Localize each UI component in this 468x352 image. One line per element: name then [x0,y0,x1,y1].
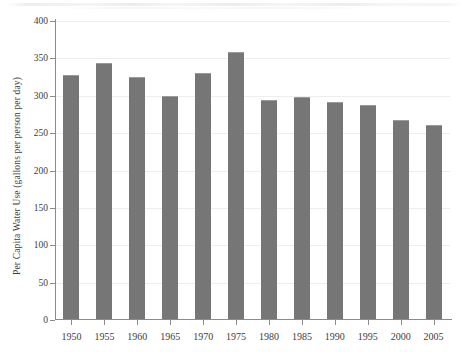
x-axis-tick [368,320,369,325]
x-axis-tick-label: 1960 [127,331,147,342]
scan-edge-artifact [8,3,462,6]
y-axis-tick-label: 250 [34,128,48,138]
x-axis-line [55,319,452,320]
x-axis-tick [170,320,171,325]
x-axis-tick [269,320,270,325]
x-axis-tick-label: 1950 [61,331,81,342]
bar [63,75,79,320]
y-axis-line [55,19,56,320]
bar [195,73,211,320]
y-axis-tick-label: 50 [39,278,49,288]
bar [393,120,409,320]
gridline [55,245,450,246]
scan-edge-artifact-secondary [60,7,378,9]
bar [162,96,178,320]
y-axis-tick-label: 350 [34,53,48,63]
bar-chart-figure: Per Capita Water Use (gallons per person… [0,0,468,352]
x-axis-tick [335,320,336,325]
bar [426,125,442,320]
plot-frame: 050100150200250300350400 195019551960196… [55,21,450,320]
gridline [55,171,450,172]
y-axis-tick-label: 400 [34,16,48,26]
x-axis-tick [104,320,105,325]
x-axis-tick [302,320,303,325]
x-axis-tick-label: 1985 [292,331,312,342]
bar [294,97,310,321]
x-axis-tick [434,320,435,325]
x-axis-tick [71,320,72,325]
bar [261,100,277,321]
y-axis-tick-label: 300 [34,91,48,101]
y-axis-title: Per Capita Water Use (gallons per person… [8,0,26,352]
gridline [55,96,450,97]
x-axis-tick-label: 1955 [94,331,114,342]
y-axis-title-text: Per Capita Water Use (gallons per person… [12,77,22,275]
bar [129,77,145,320]
x-axis-tick-label: 2005 [424,331,444,342]
gridline [55,21,450,22]
x-axis-tick-label: 1970 [193,331,213,342]
bar [228,52,244,320]
x-axis-tick [236,320,237,325]
y-axis-tick-label: 150 [34,203,48,213]
bar [96,63,112,320]
x-axis-tick-label: 1995 [358,331,378,342]
bar [327,102,343,320]
gridline [55,58,450,59]
gridline [55,208,450,209]
x-axis-tick-label: 1965 [160,331,180,342]
y-axis-tick-label: 100 [34,240,48,250]
gridline [55,283,450,284]
gridline [55,133,450,134]
y-axis-tick [50,320,55,321]
bar [360,105,376,320]
y-axis-tick-label: 200 [34,166,48,176]
x-axis-tick-label: 1980 [259,331,279,342]
y-axis-tick-label: 0 [43,315,48,325]
x-axis-tick [137,320,138,325]
plot-area: 050100150200250300350400 195019551960196… [55,21,450,320]
x-axis-tick-label: 1975 [226,331,246,342]
x-axis-tick-label: 2000 [391,331,411,342]
x-axis-tick-label: 1990 [325,331,345,342]
x-axis-tick [203,320,204,325]
x-axis-tick [401,320,402,325]
